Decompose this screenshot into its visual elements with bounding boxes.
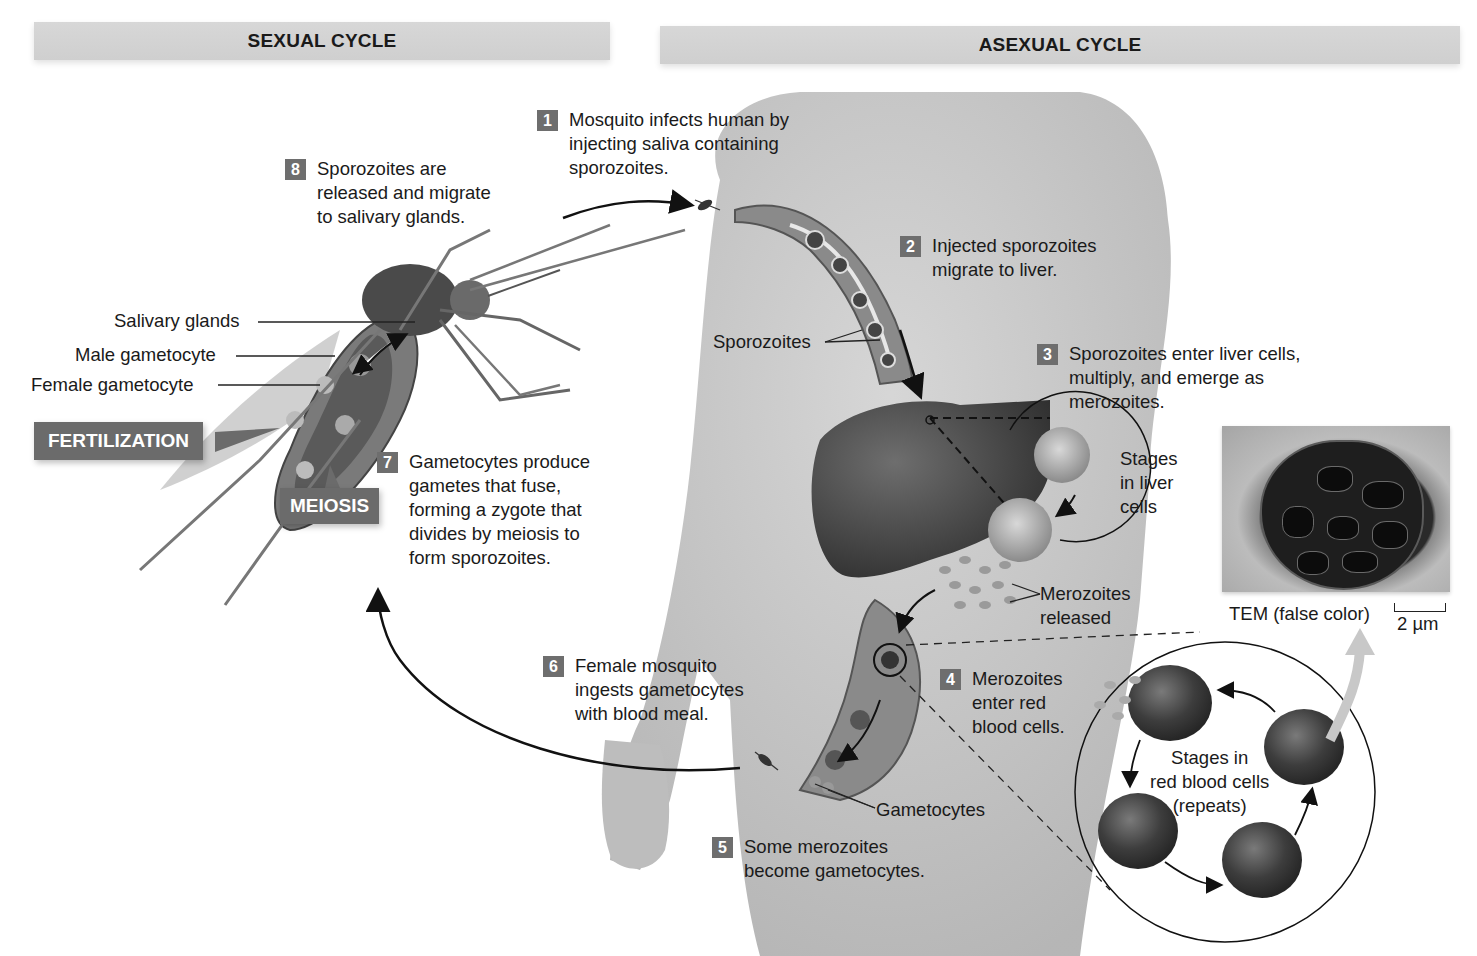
meiosis-tag: MEIOSIS	[280, 488, 379, 524]
step-5: 5 Some merozoites become gametocytes.	[712, 835, 925, 883]
step-6: 6 Female mosquito ingests gametocytes wi…	[543, 654, 744, 726]
step-5-text: Some merozoites become gametocytes.	[744, 835, 925, 883]
step-6-text: Female mosquito ingests gametocytes with…	[575, 654, 744, 726]
fertilization-tag: FERTILIZATION	[34, 422, 203, 460]
step-3: 3 Sporozoites enter liver cells, multipl…	[1037, 342, 1300, 414]
label-gametocytes: Gametocytes	[876, 798, 985, 822]
step-4-text: Merozoites enter red blood cells.	[972, 667, 1065, 739]
step-1: 1 Mosquito infects human by injecting sa…	[537, 108, 789, 180]
step-8-badge: 8	[285, 159, 306, 180]
step-4: 4 Merozoites enter red blood cells.	[940, 667, 1065, 739]
liver-cell-late	[988, 498, 1052, 562]
liver-cell-early	[1034, 427, 1090, 483]
step-1-text: Mosquito infects human by injecting sali…	[569, 108, 789, 180]
label-salivary-glands: Salivary glands	[114, 309, 239, 333]
step-1-badge: 1	[537, 110, 558, 131]
step-2-text: Injected sporozoites migrate to liver.	[932, 234, 1097, 282]
step-6-badge: 6	[543, 656, 564, 677]
label-male-gametocyte: Male gametocyte	[75, 343, 216, 367]
step-5-badge: 5	[712, 837, 733, 858]
step-8-text: Sporozoites are released and migrate to …	[317, 157, 491, 229]
step-4-badge: 4	[940, 669, 961, 690]
tem-caption: TEM (false color)	[1229, 602, 1370, 626]
label-stages-liver-cells: Stages in liver cells	[1120, 447, 1178, 519]
label-sporozoites: Sporozoites	[713, 330, 811, 354]
step-8: 8 Sporozoites are released and migrate t…	[285, 157, 491, 229]
step-2-badge: 2	[900, 236, 921, 257]
scale-bar	[1394, 603, 1446, 612]
step-7-text: Gametocytes produce gametes that fuse, f…	[409, 450, 590, 570]
label-merozoites-released: Merozoites released	[1040, 582, 1130, 630]
step-3-text: Sporozoites enter liver cells, multiply,…	[1069, 342, 1300, 414]
tem-micrograph	[1222, 426, 1450, 592]
step-2: 2 Injected sporozoites migrate to liver.	[900, 234, 1097, 282]
step-7-badge: 7	[377, 452, 398, 473]
label-stages-rbc: Stages in red blood cells (repeats)	[1150, 746, 1269, 818]
step-3-badge: 3	[1037, 344, 1058, 365]
label-female-gametocyte: Female gametocyte	[31, 373, 193, 397]
scale-value: 2 µm	[1397, 612, 1439, 636]
step-7: 7 Gametocytes produce gametes that fuse,…	[377, 450, 590, 570]
arrow-mosquito-to-human	[563, 201, 690, 218]
